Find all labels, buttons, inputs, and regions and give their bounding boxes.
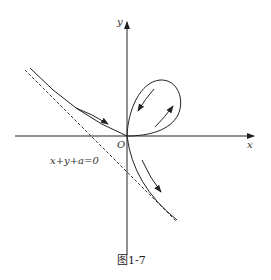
direction-arrow-lower <box>142 160 161 192</box>
x-axis-label: x <box>247 139 253 150</box>
asymptote-label: x+y+a=0 <box>50 155 99 166</box>
direction-arrow-left <box>76 108 108 124</box>
y-axis-label: y <box>117 16 123 27</box>
curve-lower-branch <box>127 136 177 220</box>
folium-diagram <box>0 0 271 280</box>
curve-left-branch <box>30 68 127 136</box>
origin-label: O <box>117 139 125 150</box>
asymptote-line <box>25 70 177 222</box>
curve-loop <box>127 80 181 136</box>
figure-caption: 图1-7 <box>117 251 146 267</box>
diagram-canvas: y x O x+y+a=0 图1-7 <box>0 0 271 280</box>
